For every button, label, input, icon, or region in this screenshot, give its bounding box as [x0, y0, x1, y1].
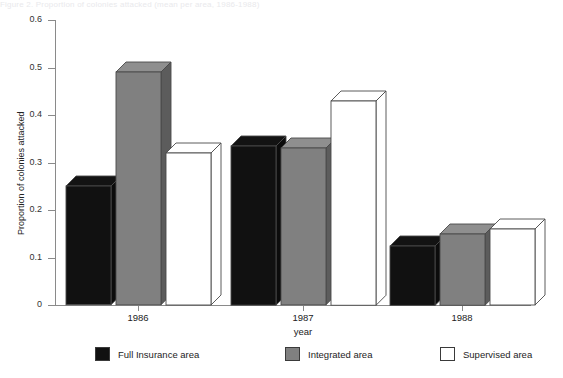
y-tick-label: 0.4 [0, 110, 42, 119]
bar-1986-series-1 [116, 62, 171, 305]
figure-caption-cropped: Figure 2. Proportion of colonies attacke… [0, 0, 563, 9]
y-tick-mark [48, 258, 55, 259]
x-tick-mark [138, 305, 139, 311]
chart-legend: Full Insurance areaIntegrated areaSuperv… [0, 345, 563, 369]
y-axis-title: Proportion of colonies attacked [16, 111, 26, 235]
x-tick-mark [303, 305, 304, 311]
bar-1988-series-1 [440, 224, 495, 305]
y-tick-label: 0.3 [0, 158, 42, 167]
legend-label: Integrated area [308, 349, 372, 360]
bar-1986-series-2 [166, 143, 221, 305]
y-tick-label: 0.6 [0, 15, 42, 24]
x-category-label-1987: 1987 [263, 312, 343, 323]
legend-swatch-icon [440, 347, 455, 361]
y-tick-label: 0 [0, 300, 42, 309]
y-tick-mark [48, 210, 55, 211]
y-tick-mark [48, 68, 55, 69]
legend-item-0[interactable]: Full Insurance area [95, 345, 199, 363]
legend-swatch-icon [285, 347, 300, 361]
bar-1987-series-2 [331, 91, 386, 305]
y-tick-label: 0.5 [0, 63, 42, 72]
x-category-label-1988: 1988 [422, 312, 502, 323]
bar-1988-series-0 [390, 236, 445, 305]
y-tick-mark [48, 163, 55, 164]
y-tick-mark [48, 115, 55, 116]
y-tick-label: 0.2 [0, 205, 42, 214]
legend-item-1[interactable]: Integrated area [285, 345, 372, 363]
y-tick-mark [48, 305, 55, 306]
x-tick-mark [462, 305, 463, 311]
legend-label: Supervised area [463, 349, 532, 360]
y-tick-label: 0.1 [0, 253, 42, 262]
bar-1988-series-2 [490, 219, 545, 305]
legend-label: Full Insurance area [118, 349, 199, 360]
y-tick-mark [48, 20, 55, 21]
x-axis-title: year [263, 326, 343, 337]
bar-1987-series-1 [281, 138, 336, 305]
x-category-label-1986: 1986 [98, 312, 178, 323]
legend-swatch-icon [95, 347, 110, 361]
plot-area [55, 20, 530, 305]
bar-chart-figure: Figure 2. Proportion of colonies attacke… [0, 0, 563, 378]
bar-1986-series-0 [66, 176, 121, 305]
legend-item-2[interactable]: Supervised area [440, 345, 532, 363]
bar-1987-series-0 [231, 136, 286, 305]
